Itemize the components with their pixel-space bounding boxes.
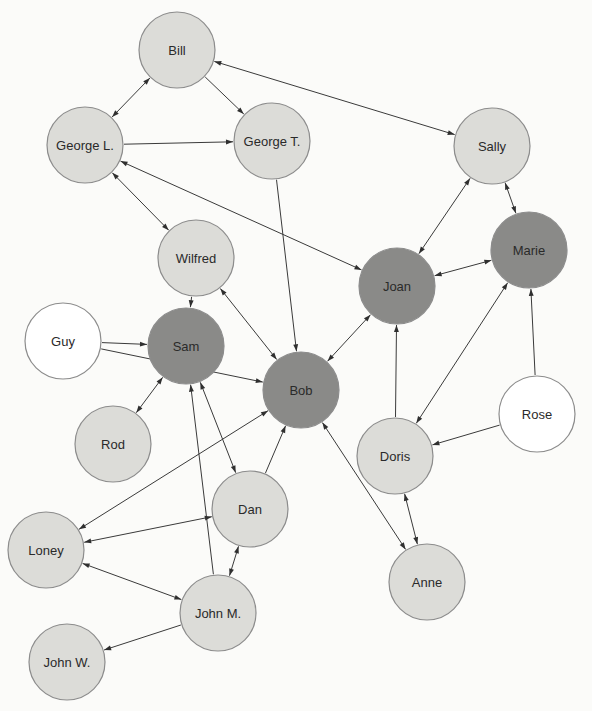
node-label: George L.	[56, 138, 114, 153]
node-label: Anne	[412, 575, 442, 590]
node-label: Rod	[101, 437, 125, 452]
edge-loney-dan	[84, 517, 212, 543]
node-label: Dan	[238, 502, 262, 517]
node-george-l: George L.	[47, 107, 123, 183]
edge-sam-rod	[136, 377, 162, 412]
node-john-w: John W.	[29, 624, 105, 700]
node-label: Rose	[522, 407, 552, 422]
node-label: Bob	[289, 383, 312, 398]
node-guy: Guy	[25, 303, 101, 379]
node-bill: Bill	[139, 12, 215, 88]
nodes-layer: BillGeorge L.George T.SallyWilfredJoanMa…	[8, 12, 575, 700]
edge-guy-sam	[102, 343, 147, 345]
edge-bill-george-l	[112, 78, 150, 117]
node-bob: Bob	[263, 352, 339, 428]
node-label: Loney	[28, 543, 64, 558]
edge-george-l-george-t	[124, 142, 233, 144]
node-rod: Rod	[75, 406, 151, 482]
edge-loney-john-m	[83, 563, 182, 599]
edge-john-m-sam	[191, 385, 214, 575]
node-loney: Loney	[8, 512, 84, 588]
node-label: John W.	[44, 655, 91, 670]
edge-john-m-john-w	[104, 625, 181, 650]
node-sam: Sam	[148, 308, 224, 384]
node-label: Doris	[380, 449, 411, 464]
node-label: Bill	[168, 43, 185, 58]
node-label: Marie	[513, 243, 546, 258]
node-label: Sam	[173, 339, 200, 354]
node-wilfred: Wilfred	[158, 220, 234, 296]
edge-wilfred-sam	[190, 297, 191, 307]
edge-rose-marie	[531, 289, 535, 375]
edge-doris-anne	[405, 494, 418, 544]
node-label: Wilfred	[176, 251, 216, 266]
edge-bill-george-t	[205, 77, 244, 114]
edge-george-t-bob	[277, 180, 297, 352]
edge-george-l-wilfred	[112, 173, 168, 230]
node-george-t: George T.	[234, 103, 310, 179]
edge-dan-bob	[265, 426, 285, 473]
node-john-m: John M.	[180, 575, 256, 651]
edge-sally-joan	[419, 178, 470, 253]
edge-rose-doris	[432, 425, 499, 445]
node-rose: Rose	[499, 376, 575, 452]
edge-joan-marie	[435, 260, 492, 275]
node-joan: Joan	[359, 248, 435, 324]
node-sally: Sally	[454, 108, 530, 184]
node-dan: Dan	[212, 471, 288, 547]
edge-doris-joan	[396, 325, 397, 417]
edge-sam-dan	[200, 382, 235, 472]
edge-wilfred-bob	[220, 289, 276, 360]
node-doris: Doris	[357, 418, 433, 494]
edge-george-l-joan	[121, 161, 362, 270]
node-marie: Marie	[491, 212, 567, 288]
node-label: Sally	[478, 139, 507, 154]
edge-sally-marie	[505, 183, 516, 214]
sociogram-diagram: BillGeorge L.George T.SallyWilfredJoanMa…	[0, 0, 592, 711]
node-label: George T.	[244, 134, 301, 149]
edge-dan-john-m	[230, 546, 239, 575]
node-label: Joan	[383, 279, 411, 294]
node-anne: Anne	[389, 544, 465, 620]
edge-joan-bob	[328, 315, 371, 362]
node-label: Guy	[51, 334, 75, 349]
node-label: John M.	[195, 606, 241, 621]
